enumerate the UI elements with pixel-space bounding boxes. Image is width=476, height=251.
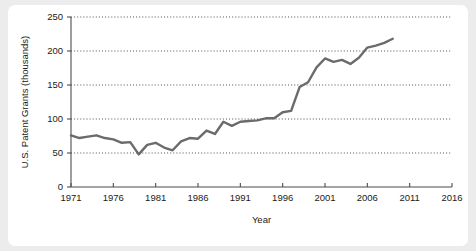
y-tick-label-250: 250 [47,11,63,22]
y-axis-title: U.S. Patent Grants (thousands) [19,36,30,169]
y-tick-label-200: 200 [47,45,63,56]
x-tick-label-2016: 2016 [441,192,462,203]
x-tick-label-1986: 1986 [187,192,208,203]
y-tick-label-50: 50 [52,147,63,158]
x-tick-label-2001: 2001 [314,192,335,203]
x-tick-label-1971: 1971 [60,192,81,203]
y-tick-label-0: 0 [58,181,63,192]
x-tick-label-1991: 1991 [230,192,251,203]
chart-canvas: 050100150200250 197119761981198619911996… [8,5,468,246]
y-axis-ticks: 050100150200250 [47,11,71,192]
y-tick-label-150: 150 [47,79,63,90]
line-chart: 050100150200250 197119761981198619911996… [8,5,468,246]
x-tick-label-2011: 2011 [399,192,419,203]
x-tick-label-1981: 1981 [145,192,166,203]
data-series-group [71,39,393,155]
gridlines-group [71,17,452,153]
x-tick-label-1996: 1996 [272,192,293,203]
data-series-0 [71,39,393,155]
figure-panel: 050100150200250 197119761981198619911996… [8,5,468,246]
y-tick-label-100: 100 [47,113,63,124]
axes-group [71,17,452,187]
x-tick-label-2006: 2006 [357,192,378,203]
x-tick-label-1976: 1976 [103,192,124,203]
x-axis-ticks: 1971197619811986199119962001200620112016 [60,183,462,203]
x-axis-title: Year [252,214,271,225]
